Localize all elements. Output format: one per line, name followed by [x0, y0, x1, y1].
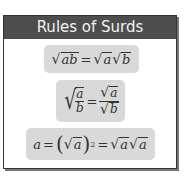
- sqrt-icon: √: [93, 52, 102, 66]
- sqrt-a: √a: [110, 137, 129, 152]
- surds-card: Rules of Surds √ab = √a √b √ab = √a √b a…: [3, 15, 177, 169]
- radicand: b: [109, 102, 119, 116]
- radicand: b: [121, 52, 131, 67]
- radicand: a: [73, 137, 83, 152]
- sqrt-icon: √: [52, 52, 61, 66]
- denominator: b: [76, 102, 84, 115]
- radicand: a: [119, 137, 129, 152]
- sqrt-ab: √ab: [52, 52, 79, 67]
- sqrt-icon: √: [64, 87, 76, 115]
- right-paren: ): [82, 134, 90, 154]
- fraction: ab: [75, 88, 84, 115]
- rule-product: √ab = √a √b: [44, 45, 139, 73]
- equals: =: [97, 137, 108, 152]
- sqrt-a: √a: [64, 137, 83, 152]
- radicand: a: [138, 137, 148, 152]
- sqrt-a: √a: [129, 137, 148, 152]
- rule-quotient: √ab = √a √b: [56, 80, 125, 122]
- rule-square: a = ( √a )2 = √a √a: [26, 128, 155, 160]
- sqrt-icon: √: [100, 102, 109, 116]
- radicand: ab: [61, 52, 79, 67]
- sqrt-icon: √: [112, 52, 121, 66]
- left-paren: (: [56, 134, 64, 154]
- equals: =: [43, 137, 54, 152]
- sqrt-icon: √: [110, 137, 119, 151]
- sqrt-a: √a: [93, 52, 112, 67]
- radicand: a: [109, 86, 118, 100]
- equals: =: [86, 94, 97, 109]
- exponent: 2: [90, 140, 95, 149]
- equals: =: [81, 52, 92, 67]
- sqrt-icon: √: [64, 137, 73, 151]
- sqrt-icon: √: [100, 85, 109, 99]
- numerator: a: [75, 88, 84, 102]
- sqrt-icon: √: [129, 137, 138, 151]
- fraction-of-roots: √a √b: [99, 85, 119, 116]
- sqrt-b: √b: [112, 52, 131, 67]
- card-title: Rules of Surds: [4, 16, 176, 39]
- sqrt-fraction: √ab: [62, 87, 85, 115]
- variable: a: [33, 137, 41, 152]
- radicand: a: [102, 52, 112, 67]
